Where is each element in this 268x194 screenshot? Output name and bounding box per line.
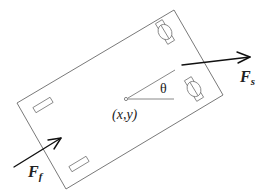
side-force-label: Fs — [239, 68, 255, 87]
vehicle-diagram: θ (x,y) Fs Ff — [0, 0, 268, 194]
rear-wheel-bottom — [69, 156, 89, 171]
heading-line — [128, 70, 175, 98]
front-wheel-bottom — [182, 75, 206, 102]
front-wheel-top — [153, 18, 177, 45]
front-force-label: Ff — [27, 163, 44, 182]
center-point — [124, 97, 127, 100]
theta-label: θ — [160, 81, 167, 96]
side-force-arrow — [182, 52, 250, 65]
position-label: (x,y) — [112, 107, 138, 123]
rear-wheel-top — [33, 97, 53, 112]
vehicle-body — [17, 10, 223, 189]
